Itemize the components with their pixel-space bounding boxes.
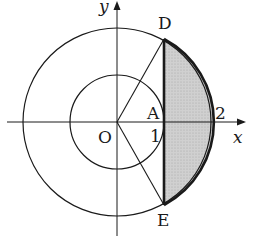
y-axis-label: y [98,0,109,16]
x-axis-label: x [233,127,243,147]
geometry-figure: y x D E A O 1 2 [0,0,257,241]
label-O: O [98,127,112,147]
label-E: E [157,210,169,230]
y-axis-arrow-icon [114,1,121,10]
tick-label-2: 2 [215,103,226,123]
label-D: D [158,13,172,33]
label-A: A [146,103,160,123]
x-axis-arrow-icon [237,119,246,126]
tick-label-1: 1 [150,126,161,146]
